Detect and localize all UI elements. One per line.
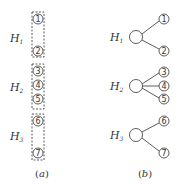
label-h2: H2 xyxy=(109,80,124,93)
group-h2-a: H2 3 4 5 xyxy=(9,64,44,109)
node-5-label: 5 xyxy=(35,95,40,104)
node-7-label: 7 xyxy=(161,149,166,158)
caption-b: (b) xyxy=(138,168,152,179)
label-h3: H3 xyxy=(9,130,24,143)
hyperedge-node-h2 xyxy=(130,80,143,93)
group-h3-a: H3 6 7 xyxy=(9,114,44,160)
hyperedge-node-h3 xyxy=(130,129,143,142)
node-2-label: 2 xyxy=(35,47,40,56)
label-h1: H1 xyxy=(109,31,123,44)
group-h3-b: H3 6 7 xyxy=(109,116,169,158)
node-2-label: 2 xyxy=(161,47,166,56)
label-h2: H2 xyxy=(9,81,24,94)
panel-b: H1 1 2 H2 3 4 5 H3 xyxy=(109,14,169,179)
caption-a: (a) xyxy=(35,168,49,179)
group-h1-b: H1 1 2 xyxy=(109,14,169,56)
node-6-label: 6 xyxy=(161,117,166,126)
node-7-label: 7 xyxy=(35,149,40,158)
node-5-label: 5 xyxy=(161,95,166,104)
node-4-label: 4 xyxy=(161,82,166,91)
node-6-label: 6 xyxy=(35,117,40,126)
hyperedge-node-h1 xyxy=(130,31,143,44)
group-h1-a: H1 1 2 xyxy=(9,12,44,57)
edge-h3-6 xyxy=(142,123,159,132)
node-3-label: 3 xyxy=(161,68,166,77)
node-3-label: 3 xyxy=(35,67,40,76)
node-4-label: 4 xyxy=(35,81,40,90)
edge-h1-2 xyxy=(142,40,159,49)
edge-h2-5 xyxy=(142,88,159,98)
edge-h1-1 xyxy=(142,21,159,34)
edge-h3-7 xyxy=(142,138,159,151)
node-1-label: 1 xyxy=(35,15,40,24)
edge-h2-3 xyxy=(142,73,159,84)
label-h1: H1 xyxy=(9,32,23,45)
panel-a: H1 1 2 H2 3 4 5 H3 6 7 (a) xyxy=(9,12,49,179)
label-h3: H3 xyxy=(109,129,124,142)
group-h2-b: H2 3 4 5 xyxy=(109,67,169,104)
node-1-label: 1 xyxy=(161,15,166,24)
hypergraph-diagram: H1 1 2 H2 3 4 5 H3 6 7 (a) xyxy=(0,0,186,185)
